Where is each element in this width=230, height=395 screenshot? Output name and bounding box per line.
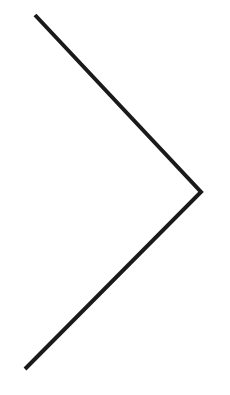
icon-canvas (0, 0, 230, 395)
chevron-stroke (25, 15, 201, 369)
chevron-right-icon (0, 0, 230, 395)
